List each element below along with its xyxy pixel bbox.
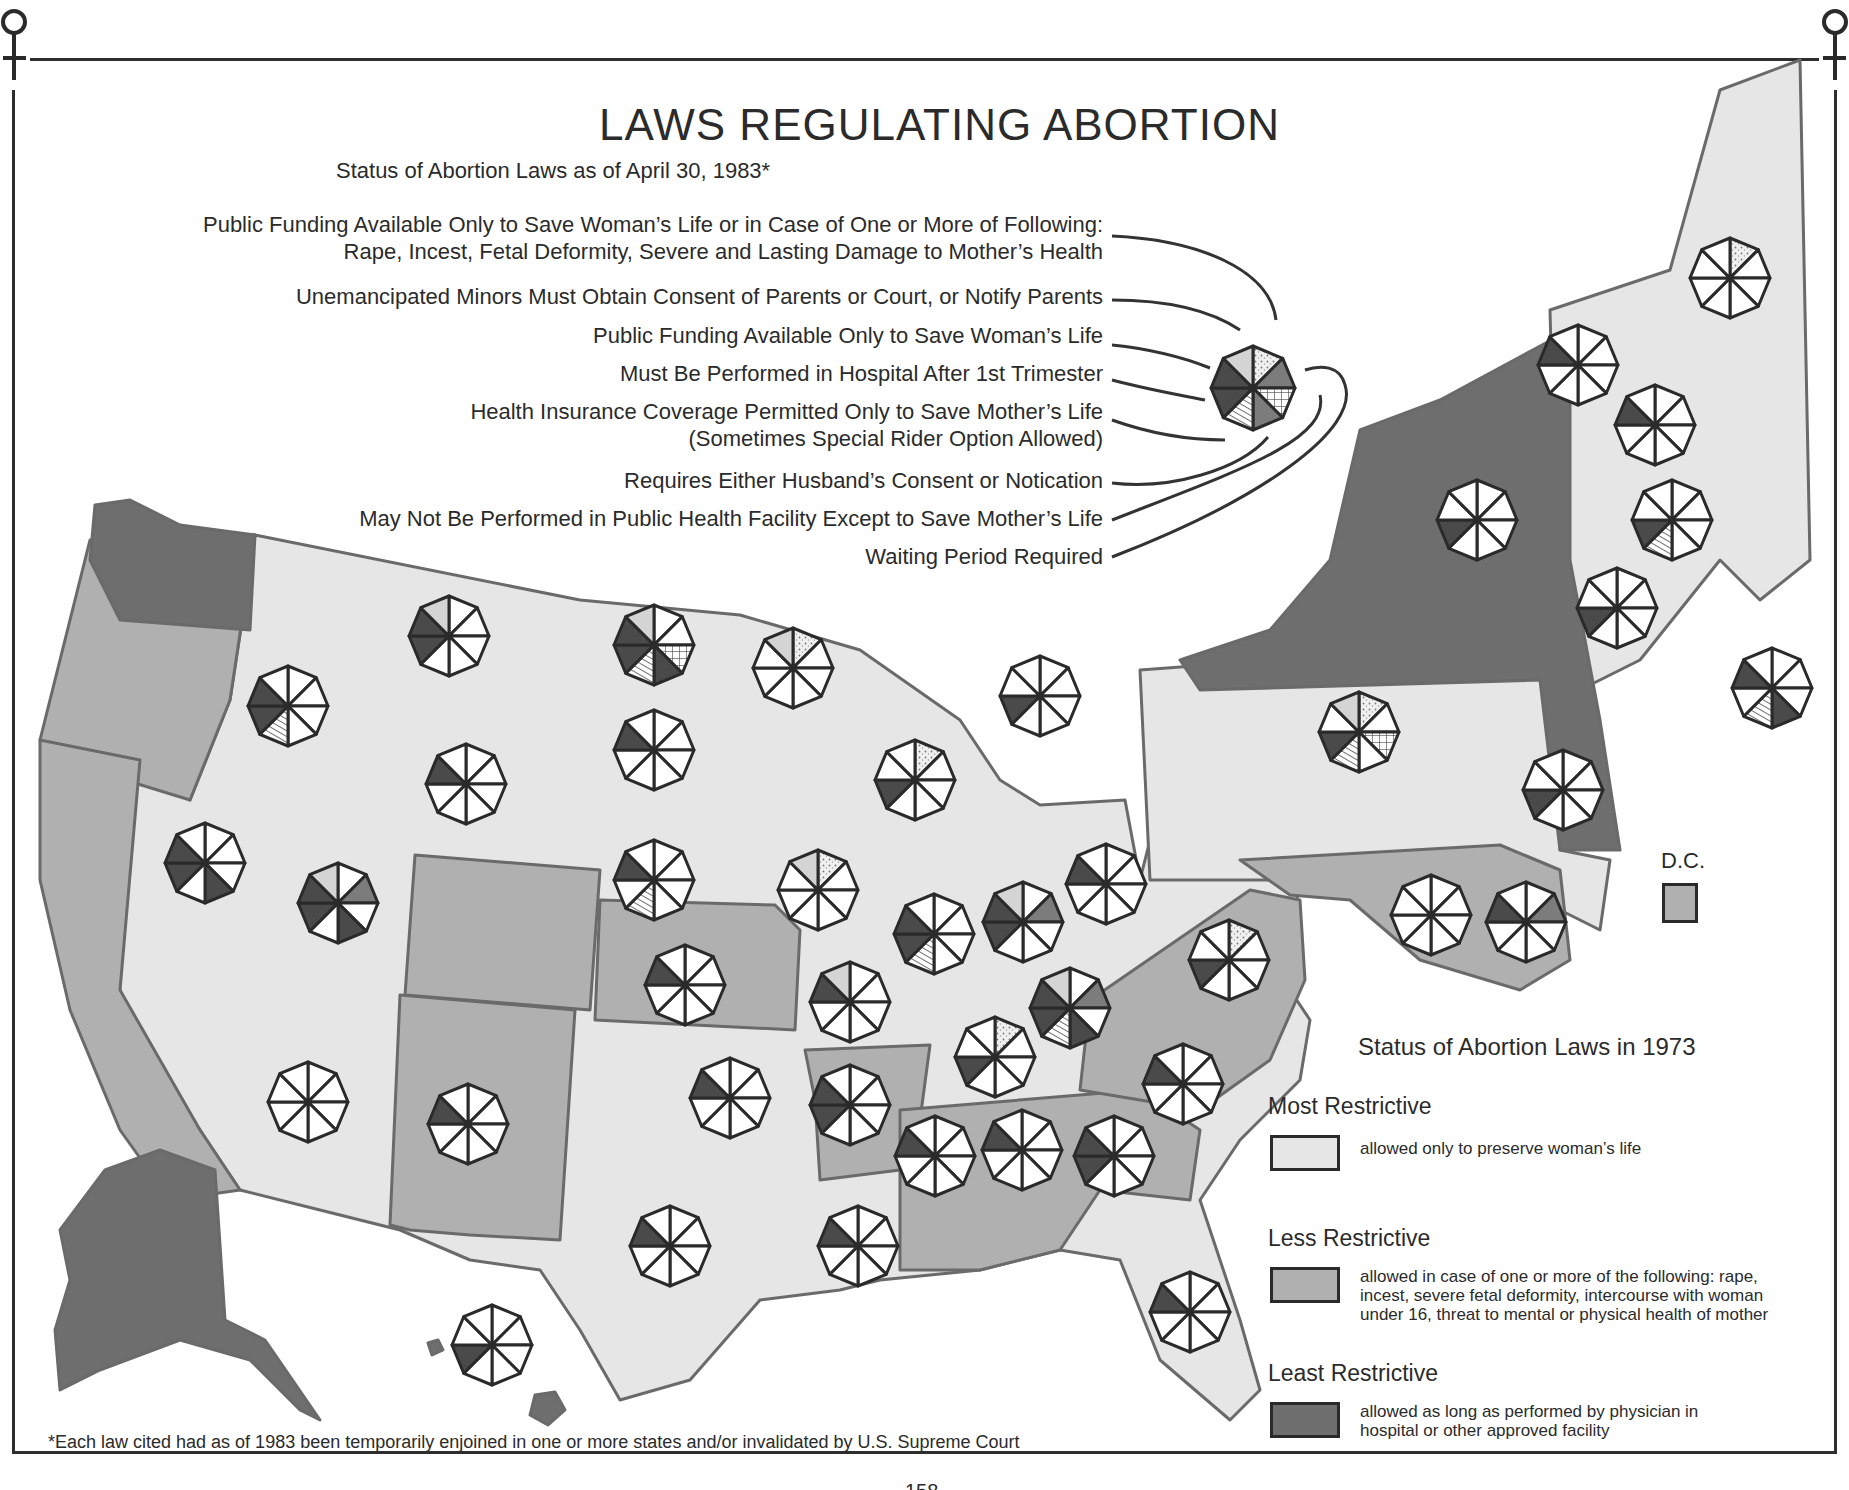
key-label-public-funding-rape-incest: Public Funding Available Only to Save Wo… bbox=[203, 211, 1103, 265]
state-hawaii-oahu bbox=[428, 1340, 443, 1355]
octagon-oh bbox=[1066, 844, 1146, 924]
octagon-me bbox=[1690, 238, 1770, 318]
dc-label: D.C. bbox=[1661, 848, 1705, 874]
octagon-la bbox=[818, 1206, 898, 1286]
swatch-least-restrictive bbox=[1270, 1402, 1340, 1438]
legend-description: allowed in case of one or more of the fo… bbox=[1360, 1267, 1800, 1324]
octagon-az bbox=[268, 1062, 348, 1142]
key-label-husband-consent: Requires Either Husband’s Consent or Not… bbox=[624, 467, 1103, 494]
octagon-id bbox=[248, 666, 328, 746]
octagon-ne bbox=[614, 840, 694, 920]
key-label-public-funding-life: Public Funding Available Only to Save Wo… bbox=[593, 322, 1103, 349]
key-label-health-insurance: Health Insurance Coverage Permitted Only… bbox=[470, 398, 1103, 452]
octagon-de bbox=[1486, 882, 1566, 962]
octagon-tx bbox=[630, 1206, 710, 1286]
legend-heading: Less Restrictive bbox=[1268, 1225, 1828, 1252]
octagon-mo bbox=[810, 962, 890, 1042]
octagon-ut bbox=[298, 863, 378, 943]
octagon-mi bbox=[1000, 656, 1080, 736]
octagon-wy bbox=[426, 744, 506, 824]
swatch-most-restrictive bbox=[1270, 1135, 1340, 1171]
key-label-public-health-facility: May Not Be Performed in Public Health Fa… bbox=[359, 505, 1103, 532]
page-title: LAWS REGULATING ABORTION bbox=[0, 100, 1849, 150]
state-hawaii-big-island bbox=[530, 1392, 565, 1425]
key-octagon-glyph bbox=[1211, 346, 1295, 430]
octagon-wv bbox=[1189, 920, 1269, 1000]
octagon-ky bbox=[1030, 968, 1110, 1048]
octagon-mn bbox=[753, 628, 833, 708]
state-colorado bbox=[405, 855, 600, 1010]
swatch-less-restrictive bbox=[1270, 1267, 1340, 1303]
octagon-nj bbox=[1523, 750, 1603, 830]
octagon-in bbox=[983, 882, 1063, 962]
octagon-ms bbox=[895, 1116, 975, 1196]
legend-less-restrictive: Less Restrictive allowed in case of one … bbox=[1268, 1225, 1828, 1252]
octagon-ny bbox=[1437, 480, 1517, 560]
octagon-nm bbox=[428, 1084, 508, 1164]
legend-heading: Most Restrictive bbox=[1268, 1093, 1828, 1120]
state-washington bbox=[90, 500, 255, 630]
key-label-hospital-after-first-trimester: Must Be Performed in Hospital After 1st … bbox=[620, 360, 1103, 387]
octagon-nv bbox=[165, 823, 245, 903]
dc-swatch bbox=[1662, 883, 1698, 923]
octagon-vt bbox=[1538, 325, 1618, 405]
octagon-wi bbox=[875, 740, 955, 820]
legend-most-restrictive: Most Restrictive allowed only to preserv… bbox=[1268, 1093, 1828, 1120]
page-subtitle: Status of Abortion Laws as of April 30, … bbox=[336, 158, 770, 184]
octagon-ri bbox=[1732, 648, 1812, 728]
octagon-pa bbox=[1319, 692, 1399, 772]
octagon-il bbox=[894, 894, 974, 974]
octagon-sd bbox=[614, 710, 694, 790]
legend-description: allowed as long as performed by physicia… bbox=[1360, 1402, 1760, 1440]
footnote: *Each law cited had as of 1983 been temp… bbox=[48, 1432, 1020, 1453]
key-label-minors-consent: Unemancipated Minors Must Obtain Consent… bbox=[296, 283, 1103, 310]
octagon-hi bbox=[452, 1305, 532, 1385]
octagon-ga bbox=[1074, 1116, 1154, 1196]
octagon-fl bbox=[1150, 1272, 1230, 1352]
octagon-ia bbox=[778, 850, 858, 930]
octagon-ar bbox=[810, 1065, 890, 1145]
legend-least-restrictive: Least Restrictive allowed as long as per… bbox=[1268, 1360, 1828, 1387]
octagon-ok bbox=[690, 1058, 770, 1138]
legend-description: allowed only to preserve woman’s life bbox=[1360, 1139, 1820, 1158]
legend-heading: Least Restrictive bbox=[1268, 1360, 1828, 1387]
key-label-waiting-period: Waiting Period Required bbox=[865, 543, 1103, 570]
octagon-ct bbox=[1577, 568, 1657, 648]
octagon-sc bbox=[1143, 1044, 1223, 1124]
octagon-tn bbox=[955, 1017, 1035, 1097]
octagon-md bbox=[1391, 875, 1471, 955]
octagon-al bbox=[982, 1110, 1062, 1190]
octagon-nd bbox=[614, 605, 694, 685]
legend-title: Status of Abortion Laws in 1973 bbox=[1358, 1033, 1696, 1061]
key-octagon bbox=[1211, 346, 1295, 430]
octagon-ma bbox=[1632, 480, 1712, 560]
page-number: 158 bbox=[905, 1478, 938, 1490]
octagon-mt bbox=[409, 596, 489, 676]
octagon-ks bbox=[645, 945, 725, 1025]
octagon-nh bbox=[1615, 385, 1695, 465]
